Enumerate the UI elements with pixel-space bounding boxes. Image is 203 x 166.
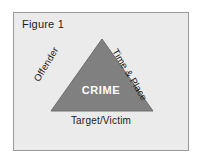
triangle-center-label-crime: CRIME <box>82 84 120 96</box>
triangle-polygon <box>51 39 153 111</box>
figure-frame: Figure 1 CRIME Offender Time & Place Tar… <box>13 12 189 151</box>
crime-triangle-diagram: CRIME Offender Time & Place Target/Victi… <box>14 13 188 150</box>
triangle-edge-label-target-victim: Target/Victim <box>71 115 131 126</box>
